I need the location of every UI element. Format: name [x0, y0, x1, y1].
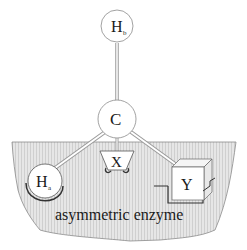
atom-c: C — [98, 100, 136, 138]
atom-y-symbol: Y — [181, 176, 193, 193]
enzyme-diagram: H b X C H a Y asymmetric enzyme — [0, 0, 247, 250]
atom-hb-subscript: b — [123, 29, 127, 37]
atom-hb: H b — [101, 10, 133, 42]
atom-ha-symbol: H — [36, 173, 48, 190]
atom-c-symbol: C — [110, 110, 121, 129]
enzyme-label: asymmetric enzyme — [55, 206, 183, 224]
pocket-x: X — [100, 151, 134, 172]
atom-x-symbol: X — [111, 154, 122, 170]
atom-hb-symbol: H — [111, 18, 123, 35]
